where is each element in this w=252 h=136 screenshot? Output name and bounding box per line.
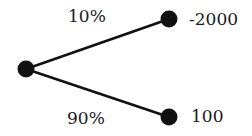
branch-line-top [26,19,169,69]
probability-label-top: 10% [68,8,106,25]
outcome-node-bottom [161,109,178,126]
root-node [18,61,35,78]
outcome-label-top: -2000 [189,11,238,28]
outcome-node-top [161,11,178,28]
probability-label-bottom: 90% [67,110,105,127]
outcome-label-bottom: 100 [191,108,223,125]
